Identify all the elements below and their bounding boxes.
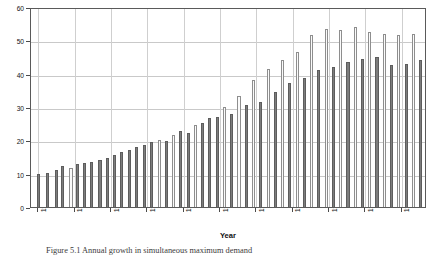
bar bbox=[346, 62, 349, 207]
bar bbox=[288, 83, 291, 207]
bar bbox=[165, 141, 168, 207]
bar bbox=[55, 170, 58, 207]
bar bbox=[296, 52, 299, 207]
x-tick-mark bbox=[183, 208, 184, 212]
bar bbox=[317, 70, 320, 207]
x-tick-mark bbox=[401, 208, 402, 212]
x-tick-mark bbox=[37, 208, 38, 212]
x-tick-mark bbox=[364, 208, 365, 212]
bar bbox=[135, 147, 138, 207]
plot-area bbox=[30, 8, 426, 208]
bar bbox=[281, 60, 284, 207]
bar bbox=[216, 117, 219, 207]
y-tick-label: 20 bbox=[0, 138, 24, 145]
bar bbox=[274, 92, 277, 207]
bar bbox=[194, 125, 197, 207]
bar bbox=[325, 29, 328, 207]
gridline-vertical bbox=[184, 9, 185, 207]
y-tick-mark bbox=[26, 208, 30, 209]
bar bbox=[390, 65, 393, 207]
bar bbox=[332, 67, 335, 207]
bar bbox=[37, 174, 40, 207]
gridline-vertical bbox=[365, 9, 366, 207]
bar bbox=[90, 162, 93, 207]
figure-caption: Figure 5.1 Annual growth in simultaneous… bbox=[46, 246, 426, 255]
y-tick-label: 60 bbox=[0, 5, 24, 12]
bar bbox=[397, 35, 400, 207]
bar bbox=[143, 145, 146, 207]
x-tick-mark bbox=[219, 208, 220, 212]
x-axis-title: Year bbox=[30, 231, 426, 240]
bar bbox=[245, 105, 248, 207]
bar bbox=[267, 69, 270, 207]
bar bbox=[179, 131, 182, 207]
x-tick-mark bbox=[74, 208, 75, 212]
gridline-vertical bbox=[220, 9, 221, 207]
bar bbox=[419, 60, 422, 207]
bar bbox=[201, 123, 204, 207]
bar bbox=[361, 59, 364, 207]
bar bbox=[412, 34, 415, 207]
bar bbox=[405, 64, 408, 207]
bar bbox=[76, 164, 79, 207]
bar bbox=[158, 140, 161, 207]
bar bbox=[46, 173, 49, 207]
bar bbox=[339, 30, 342, 207]
x-tick-mark bbox=[255, 208, 256, 212]
bar bbox=[187, 133, 190, 207]
x-tick-mark bbox=[146, 208, 147, 212]
bar bbox=[230, 114, 233, 207]
bar bbox=[98, 160, 101, 207]
x-tick-mark bbox=[110, 208, 111, 212]
gridline-vertical bbox=[256, 9, 257, 207]
y-tick-label: 40 bbox=[0, 71, 24, 78]
gridline-vertical bbox=[111, 9, 112, 207]
gridline-vertical bbox=[402, 9, 403, 207]
bar bbox=[259, 102, 262, 207]
bar bbox=[237, 96, 240, 207]
bar bbox=[83, 163, 86, 207]
y-tick-label: 30 bbox=[0, 105, 24, 112]
y-tick-label: 0 bbox=[0, 205, 24, 212]
bar bbox=[208, 118, 211, 207]
bar bbox=[310, 35, 313, 207]
bar bbox=[354, 27, 357, 207]
bar bbox=[375, 57, 378, 207]
bar bbox=[252, 80, 255, 207]
gridline-vertical bbox=[147, 9, 148, 207]
bar bbox=[128, 150, 131, 207]
bar bbox=[383, 34, 386, 207]
y-tick-label: 50 bbox=[0, 38, 24, 45]
bar bbox=[69, 168, 72, 207]
x-tick-mark bbox=[328, 208, 329, 212]
gridline-vertical bbox=[329, 9, 330, 207]
y-tick-label: 10 bbox=[0, 171, 24, 178]
bar bbox=[61, 166, 64, 207]
bar bbox=[106, 158, 109, 207]
bar bbox=[172, 135, 175, 207]
bar bbox=[113, 155, 116, 207]
bar bbox=[223, 107, 226, 207]
gridline-vertical bbox=[293, 9, 294, 207]
bar bbox=[303, 78, 306, 207]
bar bbox=[120, 152, 123, 207]
bar bbox=[368, 32, 371, 207]
x-tick-mark bbox=[292, 208, 293, 212]
bar bbox=[150, 142, 153, 207]
